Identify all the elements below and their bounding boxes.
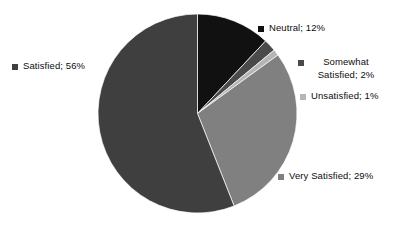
pie-slice-group	[98, 14, 297, 213]
pie-chart-canvas	[0, 0, 398, 226]
data-label-very-satisfied: Very Satisfied; 29%	[278, 170, 373, 183]
legend-swatch-very-satisfied	[278, 174, 284, 180]
legend-swatch-satisfied	[12, 64, 18, 70]
legend-swatch-somewhat-satisfied	[298, 60, 304, 66]
data-label-somewhat-satisfied: Somewhat Satisfied; 2%	[298, 56, 383, 81]
data-label-somewhat-satisfied-text: Somewhat Satisfied; 2%	[309, 56, 383, 81]
data-label-unsatisfied: Unsatisfied; 1%	[300, 90, 379, 103]
data-label-somewhat-satisfied-line1: Somewhat	[323, 56, 369, 67]
legend-swatch-neutral	[258, 26, 264, 32]
data-label-neutral: Neutral; 12%	[258, 22, 325, 35]
data-label-unsatisfied-text: Unsatisfied; 1%	[311, 90, 379, 103]
data-label-satisfied-text: Satisfied; 56%	[23, 60, 85, 73]
data-label-neutral-text: Neutral; 12%	[269, 22, 325, 35]
data-label-satisfied: Satisfied; 56%	[12, 60, 85, 73]
data-label-somewhat-satisfied-line2: Satisfied; 2%	[318, 69, 375, 80]
legend-swatch-unsatisfied	[300, 94, 306, 100]
data-label-very-satisfied-text: Very Satisfied; 29%	[289, 170, 373, 183]
pie-chart-figure: Satisfied; 56% Neutral; 12% Somewhat Sat…	[0, 0, 398, 226]
